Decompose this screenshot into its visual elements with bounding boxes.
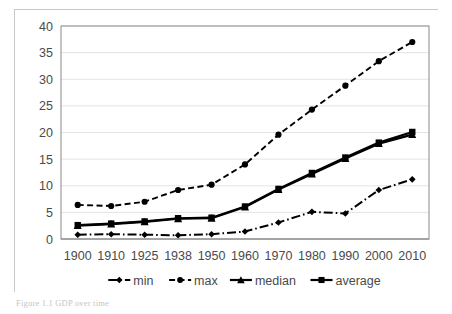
data-point-max bbox=[75, 202, 81, 208]
y-axis-tick-label: 20 bbox=[39, 126, 53, 140]
figure-caption: Figure 1.1 GDP over time bbox=[16, 298, 436, 312]
y-axis-tick-label: 40 bbox=[39, 20, 53, 34]
x-axis-tick-label: 1925 bbox=[131, 249, 159, 263]
data-point-average bbox=[342, 154, 348, 160]
data-point-average bbox=[75, 222, 81, 228]
x-axis-tick-labels: 1900191019251938195019601970198019902000… bbox=[64, 249, 426, 263]
data-point-average bbox=[242, 203, 248, 209]
y-axis-tick-label: 0 bbox=[46, 233, 53, 247]
x-axis-tick-label: 1900 bbox=[64, 249, 92, 263]
x-axis-tick-label: 1910 bbox=[97, 249, 125, 263]
x-axis-tick-label: 1960 bbox=[231, 249, 259, 263]
data-point-average bbox=[409, 129, 415, 135]
x-axis-tick-label: 1970 bbox=[265, 249, 293, 263]
data-point-max bbox=[409, 39, 415, 45]
data-point-max bbox=[208, 182, 214, 188]
data-point-max bbox=[376, 58, 382, 64]
x-axis-tick-label: 1938 bbox=[164, 249, 192, 263]
data-point-average bbox=[175, 215, 181, 221]
y-axis-tick-label: 35 bbox=[39, 46, 53, 60]
y-axis-tick-label: 5 bbox=[46, 206, 53, 220]
data-point-average bbox=[376, 139, 382, 145]
legend-label-max: max bbox=[194, 274, 218, 288]
x-axis-tick-label: 1950 bbox=[198, 249, 226, 263]
data-point-average bbox=[309, 170, 315, 176]
line-chart: 0510152025303540 19001910192519381950196… bbox=[15, 10, 439, 293]
data-point-max bbox=[309, 107, 315, 113]
data-point-max bbox=[275, 132, 281, 138]
data-point-max bbox=[175, 187, 181, 193]
legend-label-median: median bbox=[255, 274, 296, 288]
y-axis-tick-label: 10 bbox=[39, 179, 53, 193]
x-axis-tick-label: 2010 bbox=[398, 249, 426, 263]
data-point-max bbox=[108, 203, 114, 209]
data-point-average bbox=[108, 220, 114, 226]
legend-label-min: min bbox=[133, 274, 153, 288]
data-point-average bbox=[141, 218, 147, 224]
data-point-max bbox=[242, 161, 248, 167]
data-point-max bbox=[142, 199, 148, 205]
legend-marker-max bbox=[177, 277, 183, 283]
x-axis-tick-label: 1990 bbox=[331, 249, 359, 263]
data-point-average bbox=[208, 215, 214, 221]
y-axis-tick-label: 15 bbox=[39, 153, 53, 167]
legend-marker-average bbox=[318, 277, 324, 283]
x-axis-tick-label: 1980 bbox=[298, 249, 326, 263]
legend-label-average: average bbox=[336, 274, 381, 288]
chart-frame: 0510152025303540 19001910192519381950196… bbox=[14, 9, 438, 292]
data-point-average bbox=[275, 186, 281, 192]
x-axis-tick-label: 2000 bbox=[365, 249, 393, 263]
y-axis-tick-label: 30 bbox=[39, 73, 53, 87]
y-axis-tick-label: 25 bbox=[39, 99, 53, 113]
data-point-max bbox=[342, 83, 348, 89]
figure-root: 0510152025303540 19001910192519381950196… bbox=[0, 0, 452, 314]
